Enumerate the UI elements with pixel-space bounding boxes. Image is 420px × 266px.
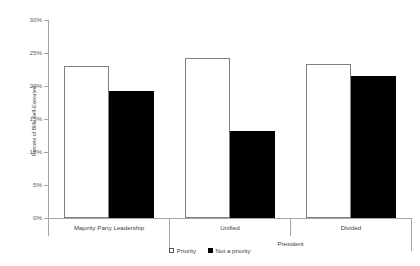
legend-item-not-a-priority: Not a priority [208,247,251,254]
bar-divided-not-a-priority [351,76,396,218]
bar-majority-party-leadership-priority [64,66,109,218]
x-category-unified: Unified [169,219,291,236]
y-tick-label-5: 5% [16,182,42,188]
chart-legend: Priority Not a priority [0,247,420,254]
bar-majority-party-leadership-not-a-priority [109,91,154,218]
y-tick-label-10: 10% [16,149,42,155]
x-category-divided: Divided [290,219,412,236]
legend-label-not-a-priority: Not a priority [216,247,251,254]
y-tick-label-20: 20% [16,83,42,89]
legend-item-priority: Priority [169,247,196,254]
bar-divided-priority [306,64,351,218]
bar-unified-priority [185,58,230,218]
bar-unified-not-a-priority [230,131,275,218]
y-tick-label-30: 30% [16,17,42,23]
y-tick-label-15: 15% [16,116,42,122]
bar-chart: Percent of Bills Self-Executed 30% 25% 2… [0,0,420,266]
y-tick-label-25: 25% [16,50,42,56]
x-axis-category-labels: Majority Party Leadership Unified Divide… [48,219,412,236]
x-category-majority-party-leadership: Majority Party Leadership [48,219,170,236]
legend-label-priority: Priority [177,247,196,254]
y-tick-label-0: 0% [16,215,42,221]
legend-swatch-priority-icon [169,248,174,253]
legend-swatch-not-a-priority-icon [208,248,213,253]
plot-area [49,20,412,218]
y-axis-tick-labels: 30% 25% 20% 15% 10% 5% 0% [14,0,42,266]
